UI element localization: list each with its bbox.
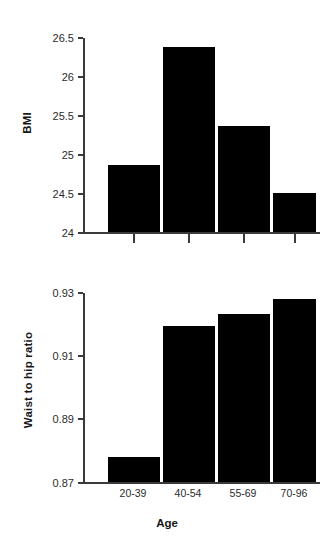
bar-bmi-20-39: [108, 165, 160, 232]
y-tick-label-whr-0-93: 0.93: [18, 287, 74, 299]
y-tick-label-whr-0-87: 0.87: [18, 477, 74, 489]
y-axis-title-bmi: BMI: [21, 93, 33, 153]
bar-whr-55-69: [218, 314, 270, 482]
bar-bmi-40-54: [163, 47, 215, 232]
y-tick-mark-whr-0-89: [78, 418, 83, 420]
y-tick-label-whr-0-89: 0.89: [18, 413, 74, 425]
bar-bmi-70-96: [273, 193, 316, 232]
y-tick-mark-whr-0-91: [78, 355, 83, 357]
y-tick-mark-bmi-25-5: [78, 115, 83, 117]
y-axis-line-bmi: [83, 38, 85, 234]
y-tick-label-bmi-25: 25: [26, 149, 74, 161]
bar-whr-70-96: [273, 299, 316, 482]
x-tick-label-whr-55-69: 55-69: [230, 487, 257, 499]
bar-whr-20-39: [108, 457, 160, 482]
y-tick-mark-bmi-24-5: [78, 193, 83, 195]
y-tick-label-bmi-25-5: 25.5: [26, 110, 74, 122]
y-tick-label-whr-0-91: 0.91: [18, 350, 74, 362]
x-tick-mark-bmi-55-69: [243, 234, 245, 243]
x-tick-label-whr-20-39: 20-39: [120, 487, 147, 499]
y-axis-line-whr: [83, 293, 85, 484]
x-axis-title-age: Age: [0, 517, 334, 529]
whr-chart-panel: Waist to hip ratio 0.93 0.91 0.89 0.87 2…: [0, 262, 334, 550]
bar-whr-40-54: [163, 326, 215, 482]
y-tick-mark-bmi-26: [78, 76, 83, 78]
y-tick-label-bmi-26: 26: [26, 71, 74, 83]
y-axis-title-whr: Waist to hip ratio: [22, 310, 34, 450]
x-tick-label-whr-40-54: 40-54: [175, 487, 202, 499]
figure-canvas: BMI 26.5 26 25.5 25 24.5 24 Waist to hip: [0, 0, 334, 550]
bar-bmi-55-69: [218, 126, 270, 232]
x-tick-mark-bmi-70-96: [294, 234, 296, 243]
y-tick-label-bmi-26-5: 26.5: [26, 32, 74, 44]
y-tick-mark-bmi-25: [78, 154, 83, 156]
y-tick-mark-whr-0-93: [78, 292, 83, 294]
x-tick-label-whr-70-96: 70-96: [281, 487, 308, 499]
y-tick-mark-bmi-26-5: [78, 37, 83, 39]
x-tick-mark-bmi-20-39: [133, 234, 135, 243]
y-tick-label-bmi-24: 24: [26, 227, 74, 239]
x-axis-line-whr: [83, 482, 320, 484]
x-tick-mark-bmi-40-54: [188, 234, 190, 243]
bmi-chart-panel: BMI 26.5 26 25.5 25 24.5 24: [0, 0, 334, 262]
y-tick-label-bmi-24-5: 24.5: [26, 188, 74, 200]
x-axis-line-bmi: [83, 232, 320, 234]
